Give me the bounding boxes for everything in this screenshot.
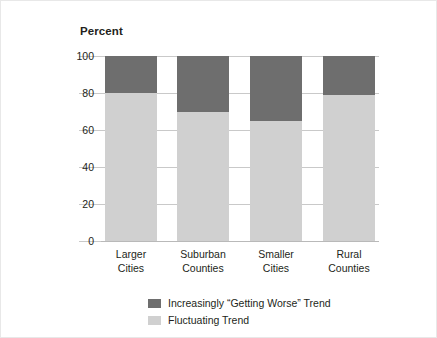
bar-segment-fluctuating [177,112,229,242]
legend-swatch-light-icon [148,316,161,325]
bar-segment-fluctuating [105,93,157,241]
y-tick-label-100: 100 [76,50,94,62]
legend-item-fluctuating: Fluctuating Trend [148,314,331,326]
legend-label-fluctuating: Fluctuating Trend [168,314,249,326]
y-tick-label-20: 20 [82,198,94,210]
gridline-0: 0 [101,241,379,242]
category-label-line1: Rural [297,248,401,262]
y-axis-title: Percent [80,25,123,37]
legend-item-getting-worse: Increasingly “Getting Worse” Trend [148,297,331,309]
y-tick-label-40: 40 [82,161,94,173]
category-label-line2: Counties [297,262,401,276]
bar-segment-getting-worse [250,56,302,121]
bar-group-larger-cities [105,56,157,241]
bar-segment-getting-worse [177,56,229,112]
bar-group-suburban-counties [177,56,229,241]
bar-segment-fluctuating [323,95,375,241]
plot-area: 100 80 60 40 20 0 [101,56,379,241]
legend-label-getting-worse: Increasingly “Getting Worse” Trend [168,297,331,309]
bar-group-rural-counties [323,56,375,241]
y-tick-label-60: 60 [82,124,94,136]
y-tick-label-80: 80 [82,87,94,99]
bar-segment-getting-worse [105,56,157,93]
bar-series-container [101,56,379,241]
chart-figure: Percent 100 80 60 40 20 0 [0,0,437,338]
y-tick-label-0: 0 [88,235,94,247]
bar-segment-fluctuating [250,121,302,241]
legend-swatch-dark-icon [148,299,161,308]
bar-group-smaller-cities [250,56,302,241]
category-label-rural-counties: Rural Counties [297,248,401,275]
bar-segment-getting-worse [323,56,375,95]
chart-legend: Increasingly “Getting Worse” Trend Fluct… [148,297,331,331]
